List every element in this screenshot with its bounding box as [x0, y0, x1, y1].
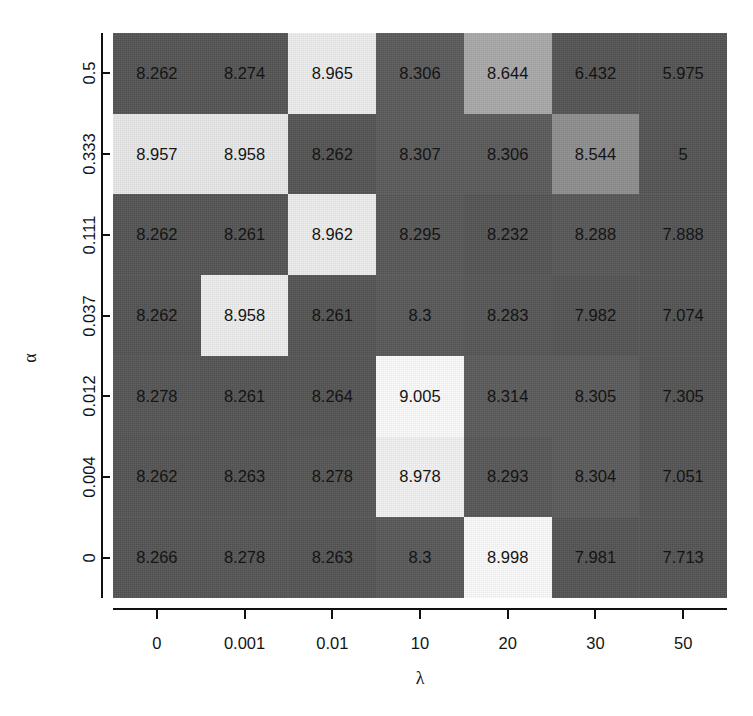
y-tick-mark [101, 557, 110, 559]
x-tick-mark [331, 610, 333, 619]
y-tick-label: 0.012 [80, 376, 99, 417]
heatmap-cell: 8.3 [376, 275, 464, 356]
heatmap-cell: 8.263 [201, 437, 289, 518]
heatmap-cell-value: 7.074 [662, 306, 703, 325]
heatmap-cell: 8.962 [288, 194, 376, 275]
heatmap-cell-value: 7.305 [662, 387, 703, 406]
x-tick-label: 0.001 [224, 634, 265, 653]
heatmap-cell: 8.544 [552, 114, 640, 195]
x-tick-mark [244, 610, 246, 619]
heatmap-cell: 8.314 [464, 356, 552, 437]
heatmap-cell: 8.274 [201, 33, 289, 114]
heatmap-cell: 8.644 [464, 33, 552, 114]
heatmap-cell-value: 8.306 [487, 145, 528, 164]
y-tick-label: 0.037 [80, 295, 99, 336]
heatmap-cell-value: 8.3 [409, 548, 432, 567]
heatmap-cell: 8.965 [288, 33, 376, 114]
y-tick-label: 0.111 [80, 215, 99, 254]
y-axis-label: α [20, 353, 41, 362]
heatmap-cell: 8.232 [464, 194, 552, 275]
plot-area: 8.2628.2748.9658.3068.6446.4325.9758.957… [113, 33, 727, 598]
y-tick-label: 0 [80, 553, 99, 562]
heatmap-cell-value: 7.981 [575, 548, 616, 567]
heatmap-cell-value: 8.263 [312, 548, 353, 567]
heatmap-cell: 8.264 [288, 356, 376, 437]
heatmap-cell: 8.262 [113, 275, 201, 356]
heatmap-cell-value: 8.306 [399, 64, 440, 83]
x-axis-label: λ [416, 668, 425, 689]
heatmap-cell-value: 8.544 [575, 145, 616, 164]
heatmap-cell-value: 8.263 [224, 467, 265, 486]
heatmap-cell-value: 9.005 [399, 387, 440, 406]
heatmap-cell-value: 8.261 [312, 306, 353, 325]
heatmap-cell-value: 8.962 [312, 225, 353, 244]
heatmap-cell-value: 8.261 [224, 225, 265, 244]
heatmap-cell: 8.306 [376, 33, 464, 114]
heatmap-cell: 8.263 [288, 517, 376, 598]
x-tick-label: 50 [674, 634, 692, 653]
heatmap-cell: 8.958 [201, 114, 289, 195]
heatmap-cell-value: 8.262 [312, 145, 353, 164]
x-tick-mark [156, 610, 158, 619]
x-tick-label: 0.01 [316, 634, 348, 653]
heatmap-cell-value: 8.264 [312, 387, 353, 406]
heatmap-cell: 8.3 [376, 517, 464, 598]
y-tick-mark [101, 315, 110, 317]
heatmap-cell-value: 8.266 [136, 548, 177, 567]
heatmap-cell-value: 8.293 [487, 467, 528, 486]
heatmap-cell: 8.262 [113, 437, 201, 518]
heatmap-cell-value: 8.957 [136, 145, 177, 164]
heatmap-cell: 8.262 [288, 114, 376, 195]
heatmap-cell: 8.262 [113, 194, 201, 275]
heatmap-cell: 7.713 [639, 517, 727, 598]
heatmap-cell-value: 8.278 [224, 548, 265, 567]
heatmap-cell: 8.978 [376, 437, 464, 518]
heatmap-cell-value: 8.274 [224, 64, 265, 83]
y-tick-label: 0.5 [80, 62, 99, 85]
scan-bleedthrough-text [0, 0, 753, 26]
heatmap-cell-value: 8.958 [224, 306, 265, 325]
heatmap-cell: 8.307 [376, 114, 464, 195]
heatmap-cell-value: 7.982 [575, 306, 616, 325]
heatmap-cell: 5.975 [639, 33, 727, 114]
heatmap-cell-value: 8.288 [575, 225, 616, 244]
x-tick-mark [419, 610, 421, 619]
x-tick-label: 0 [152, 634, 161, 653]
heatmap-cell-value: 8.262 [136, 467, 177, 486]
heatmap-cell: 8.305 [552, 356, 640, 437]
heatmap-cell-value: 8.262 [136, 306, 177, 325]
heatmap-cell-value: 7.713 [662, 548, 703, 567]
heatmap-cell: 8.958 [201, 275, 289, 356]
heatmap-cell: 8.283 [464, 275, 552, 356]
y-tick-mark [101, 153, 110, 155]
heatmap-cell-value: 5 [679, 145, 688, 164]
heatmap-cell: 8.261 [201, 194, 289, 275]
heatmap-cell: 8.278 [113, 356, 201, 437]
heatmap-cell: 8.262 [113, 33, 201, 114]
heatmap-cell: 8.261 [201, 356, 289, 437]
heatmap-cell: 7.051 [639, 437, 727, 518]
heatmap-cell-value: 8.262 [136, 225, 177, 244]
x-tick-label: 10 [411, 634, 429, 653]
heatmap-cell: 8.278 [201, 517, 289, 598]
heatmap-figure: α λ 8.2628.2748.9658.3068.6446.4325.9758… [0, 0, 753, 716]
heatmap-cell-value: 8.978 [399, 467, 440, 486]
heatmap-cell-value: 8.232 [487, 225, 528, 244]
heatmap-cell-value: 8.261 [224, 387, 265, 406]
heatmap-cell: 7.074 [639, 275, 727, 356]
heatmap-cell: 8.266 [113, 517, 201, 598]
x-tick-mark [682, 610, 684, 619]
heatmap-cell: 8.998 [464, 517, 552, 598]
heatmap-cell: 7.305 [639, 356, 727, 437]
heatmap-cell: 8.293 [464, 437, 552, 518]
heatmap-cell: 8.306 [464, 114, 552, 195]
heatmap-cell: 9.005 [376, 356, 464, 437]
heatmap-cell: 7.888 [639, 194, 727, 275]
heatmap-cell: 7.982 [552, 275, 640, 356]
heatmap-cell-value: 8.314 [487, 387, 528, 406]
heatmap-cell-value: 8.283 [487, 306, 528, 325]
y-tick-label: 0.333 [80, 133, 99, 174]
heatmap-cell-value: 8.304 [575, 467, 616, 486]
heatmap-cell: 8.304 [552, 437, 640, 518]
heatmap-cell: 6.432 [552, 33, 640, 114]
